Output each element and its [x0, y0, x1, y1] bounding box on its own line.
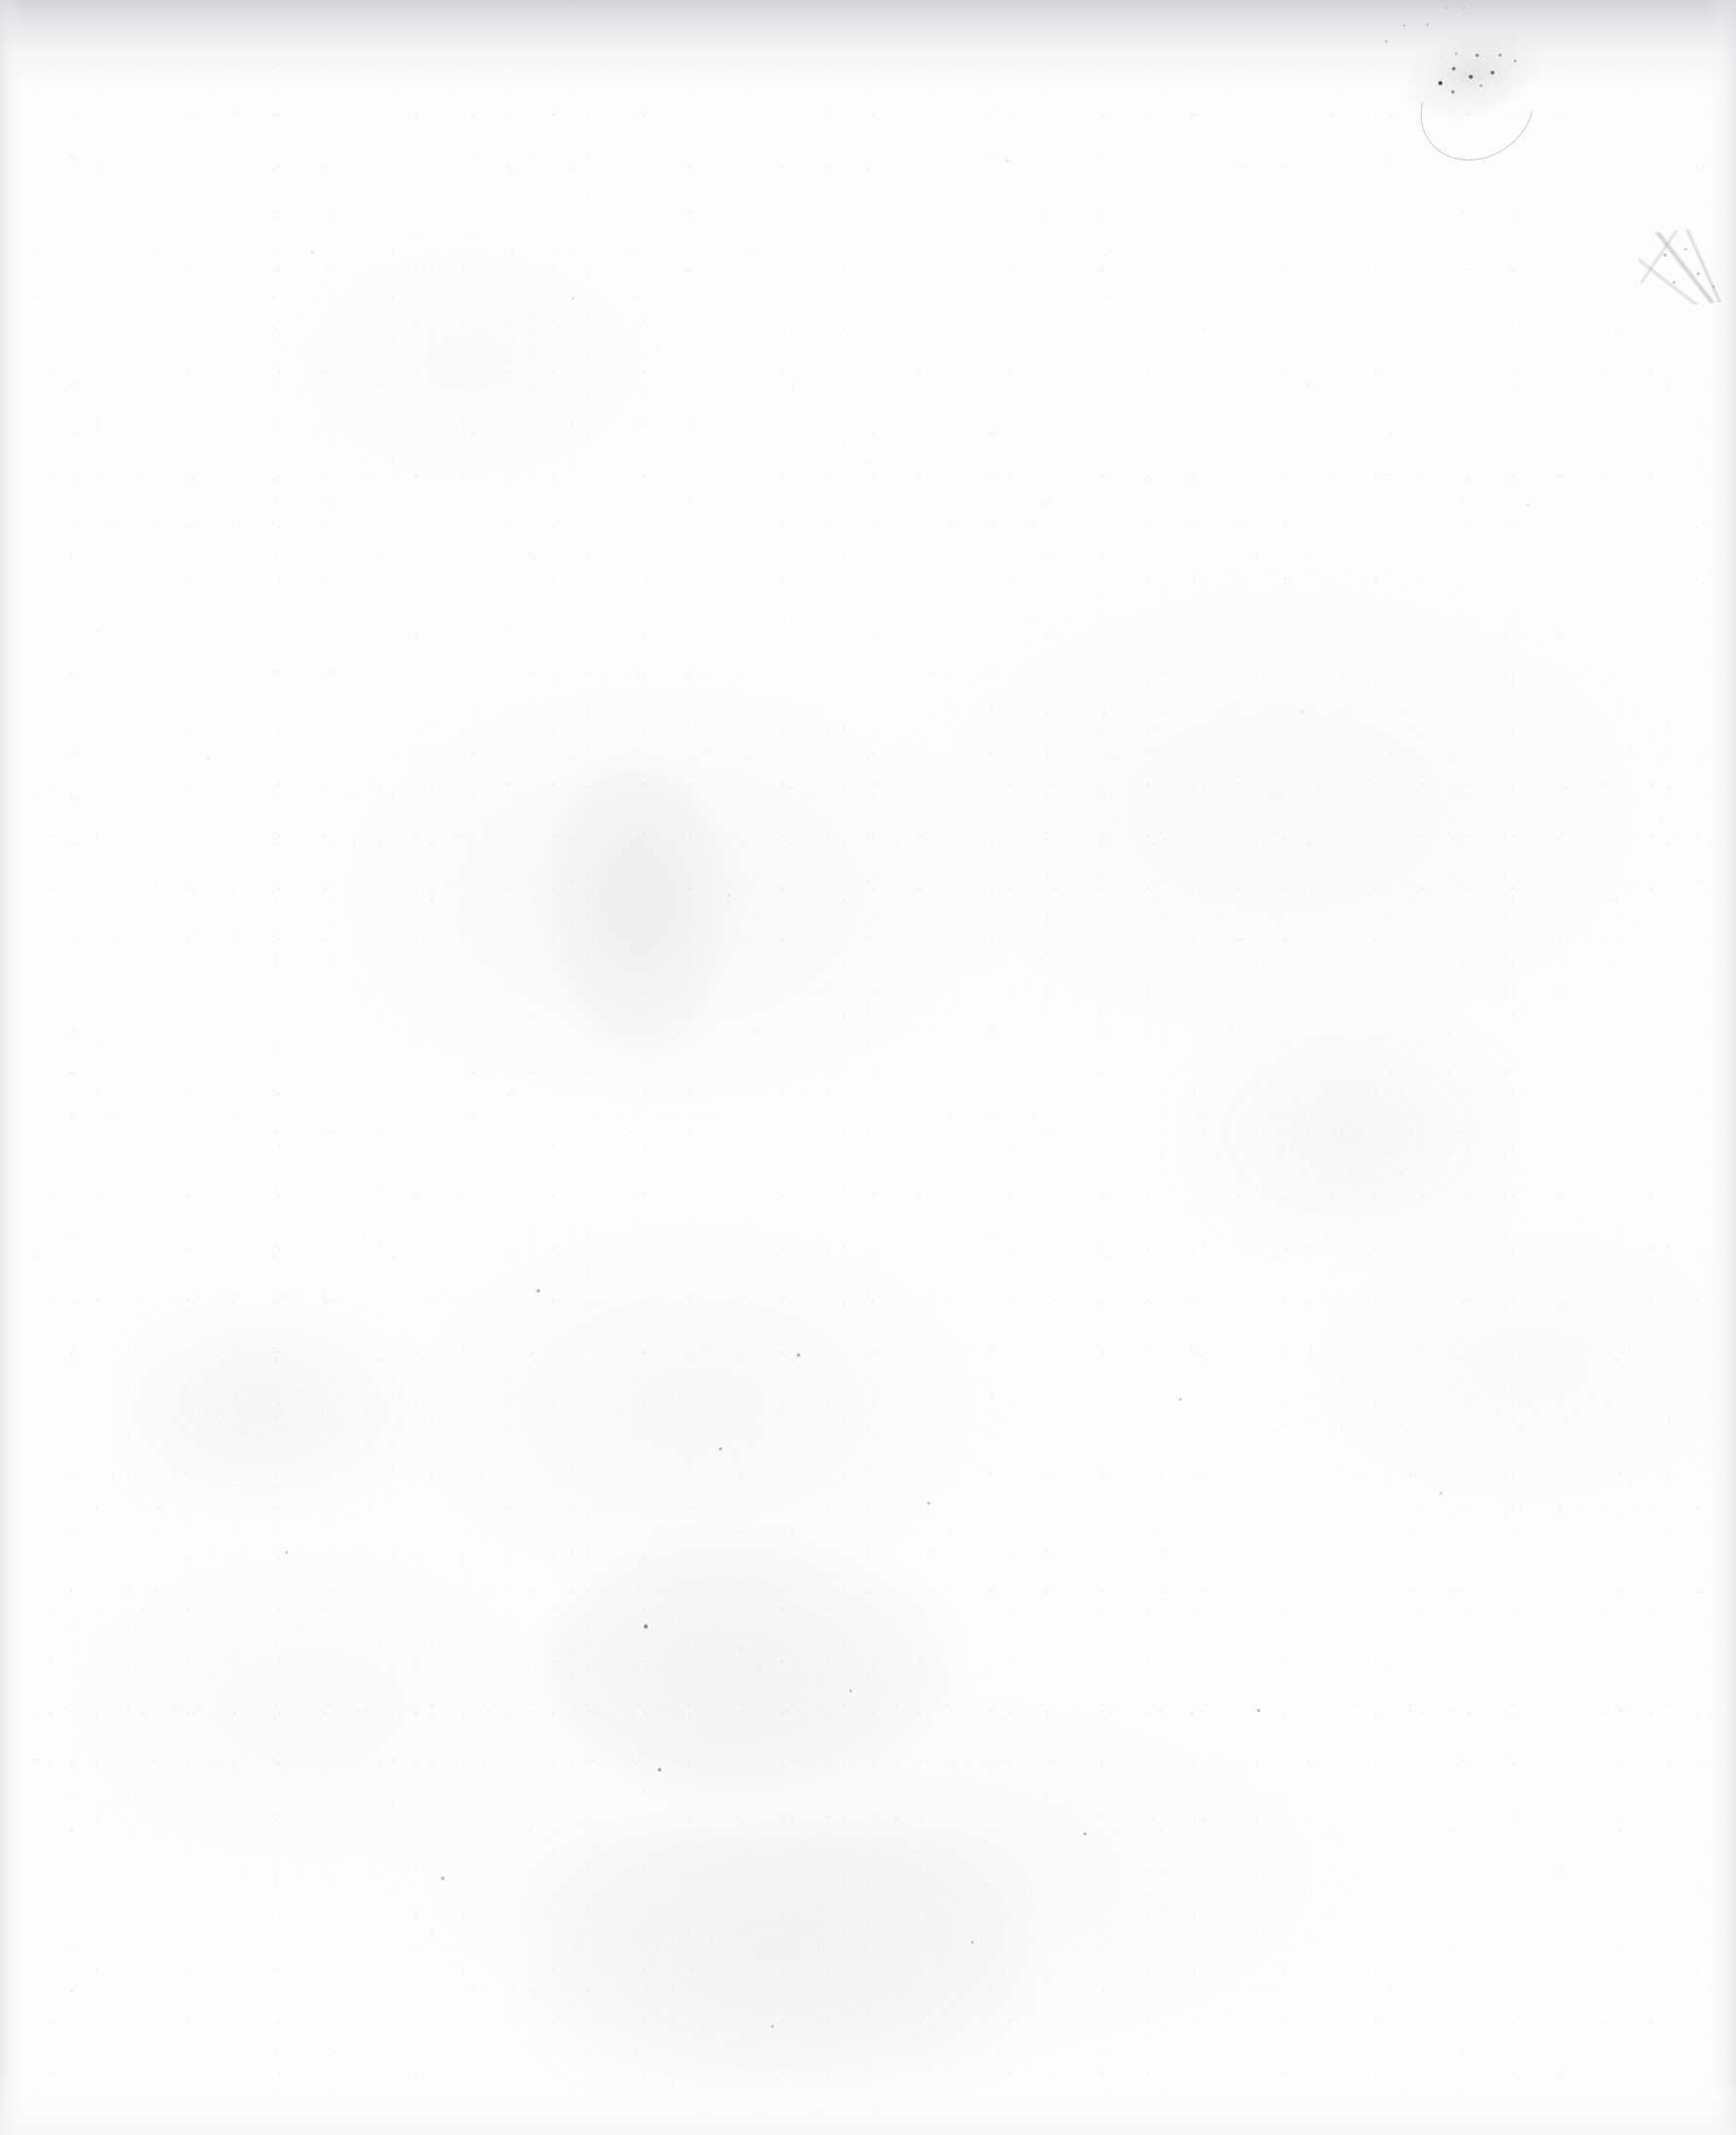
- scanned-page: Blank page from a scanned document. No p…: [0, 0, 1736, 2135]
- right-edge-shadow: [1707, 0, 1736, 2135]
- pencil-scratches: [1636, 225, 1736, 310]
- paper-grain-texture: [0, 0, 1736, 2135]
- scuff-mark-arc: [1399, 32, 1554, 182]
- foxing-stain-right: [1167, 1021, 1517, 1255]
- foxing-stain-left: [117, 1303, 428, 1517]
- left-edge-shadow: [0, 0, 25, 2135]
- bottom-edge-shadow: [0, 2077, 1736, 2135]
- scuff-mark-speckle: [1414, 18, 1544, 119]
- foxing-stain-lower: [545, 1537, 963, 1790]
- foxing-stain-center: [545, 768, 729, 1060]
- scuff-mark-tail: [1359, 0, 1482, 71]
- foxing-stain-bottom: [525, 1833, 1031, 2096]
- scuff-mark-halo: [1382, 0, 1597, 176]
- top-edge-shadow: [0, 0, 1736, 107]
- dust-specks-lower: [0, 1148, 1736, 2135]
- pencil-scratch-specks: [1644, 233, 1733, 305]
- dust-specks-upper: [0, 0, 1736, 1148]
